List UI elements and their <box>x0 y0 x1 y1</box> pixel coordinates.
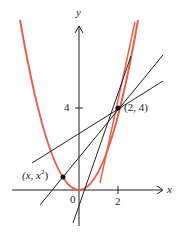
moving-point-label-base: (x, x <box>22 169 41 181</box>
point-moving <box>61 175 66 180</box>
secant-tangent-figure: y x 0 2 4 (2, 4) (x, x2) <box>0 0 186 237</box>
plot-canvas <box>0 0 186 237</box>
y-tick-label-4: 4 <box>64 101 70 113</box>
x-axis-label: x <box>167 183 172 195</box>
fixed-point-label: (2, 4) <box>124 101 148 113</box>
origin-label: 0 <box>70 193 76 205</box>
x-tick-label-2: 2 <box>115 195 121 207</box>
y-axis-label: y <box>76 6 81 18</box>
secant-line-3 <box>73 56 131 223</box>
moving-point-label: (x, x2) <box>22 168 48 181</box>
point-fixed <box>116 106 121 111</box>
moving-point-label-close: ) <box>44 169 48 181</box>
secant-line-1 <box>32 81 163 163</box>
